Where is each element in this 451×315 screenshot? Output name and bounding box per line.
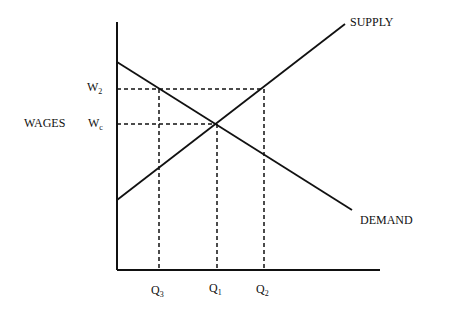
q2-tick-label: Q2 [256,282,269,298]
q3-tick-label: Q3 [151,283,164,299]
y-axis-label: WAGES [24,116,65,131]
demand-curve [117,62,352,210]
wc-tick-label: Wc [88,116,103,132]
w2-tick-label: W2 [87,80,102,96]
supply-label: SUPPLY [350,15,393,30]
q1-tick-label: Q1 [209,281,222,297]
diagram-canvas [0,0,451,315]
demand-label: DEMAND [360,213,413,228]
supply-curve [117,24,345,200]
